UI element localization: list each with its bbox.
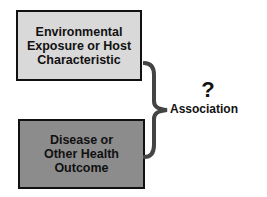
association-label: Association: [170, 102, 238, 116]
outcome-label: Disease or Other Health Outcome: [44, 133, 119, 175]
exposure-label: Environmental Exposure or Host Character…: [27, 25, 131, 67]
exposure-box: Environmental Exposure or Host Character…: [16, 10, 142, 81]
curly-brace-icon: [143, 61, 169, 159]
question-mark-icon: ?: [197, 78, 219, 102]
outcome-box: Disease or Other Health Outcome: [18, 119, 145, 189]
